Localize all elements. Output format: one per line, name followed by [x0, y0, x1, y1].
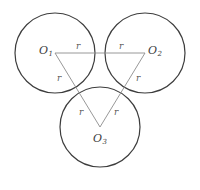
center-label-o3-letter: O — [93, 132, 102, 145]
center-label-o1-subscript: 1 — [49, 50, 53, 58]
radius-label-bottom-right: r — [114, 108, 118, 117]
radius-label-bottom-left: r — [79, 108, 83, 117]
geometry-figure: O1 O2 O3 r r r r r r — [0, 0, 200, 190]
radius-label-left: r — [57, 74, 61, 83]
center-label-o2-letter: O — [148, 44, 157, 57]
radius-label-right: r — [136, 74, 140, 83]
radius-label-top-left: r — [76, 42, 80, 51]
center-label-o1: O1 — [39, 45, 53, 56]
center-label-o3-subscript: 3 — [103, 138, 107, 146]
center-label-o1-letter: O — [39, 44, 48, 57]
radius-label-top-right: r — [119, 42, 123, 51]
geometry-canvas — [0, 0, 200, 190]
center-label-o2: O2 — [148, 45, 162, 56]
center-label-o2-subscript: 2 — [158, 50, 162, 58]
center-label-o3: O3 — [93, 133, 107, 144]
